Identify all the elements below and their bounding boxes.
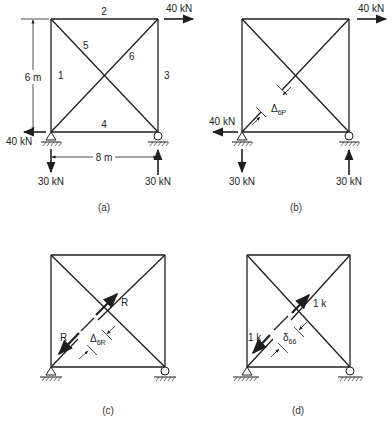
member-label-1: 1 bbox=[58, 70, 64, 81]
member-label-3: 3 bbox=[164, 70, 170, 81]
pin-support bbox=[40, 367, 62, 381]
svg-text:R: R bbox=[60, 332, 67, 343]
member-6-upper-segment bbox=[291, 255, 350, 320]
svg-text:30 kN: 30 kN bbox=[336, 176, 362, 187]
member-label-6: 6 bbox=[129, 51, 135, 62]
svg-text:Δ6R: Δ6R bbox=[90, 333, 106, 346]
member-6-upper-segment bbox=[98, 255, 165, 320]
load-arrow-top-right: 40 kN bbox=[164, 3, 193, 19]
force-arrow-lower-R: R bbox=[59, 332, 79, 354]
pin-support bbox=[232, 132, 253, 146]
separation-line bbox=[274, 316, 288, 330]
member-label-2: 2 bbox=[101, 6, 107, 17]
svg-text:30 kN: 30 kN bbox=[145, 176, 171, 187]
roller-support bbox=[339, 132, 360, 146]
reaction-arrow-left-vertical: 30 kN bbox=[229, 149, 255, 187]
svg-text:40 kN: 40 kN bbox=[209, 116, 235, 127]
width-dimension: 8 m bbox=[52, 152, 157, 163]
svg-text:δ66: δ66 bbox=[283, 332, 296, 345]
member-6-lower-segment bbox=[247, 339, 273, 367]
caption-d: (d) bbox=[292, 405, 304, 416]
caption-c: (c) bbox=[102, 405, 114, 416]
panel-b: Δ6P 40 kN 40 kN 30 kN 30 kN bbox=[209, 3, 386, 213]
height-dimension: 6 m bbox=[21, 19, 49, 131]
pin-support bbox=[233, 367, 259, 381]
svg-text:30 kN: 30 kN bbox=[38, 176, 64, 187]
svg-text:R: R bbox=[121, 297, 128, 308]
roller-support bbox=[154, 367, 176, 381]
truss-frame bbox=[51, 19, 158, 132]
truss-figure: 2 1 3 4 5 6 6 m 8 m bbox=[0, 0, 392, 424]
roller-support bbox=[148, 132, 169, 146]
reaction-arrow-left-vertical: 30 kN bbox=[38, 149, 64, 187]
reaction-arrow-right-vertical: 30 kN bbox=[145, 150, 171, 187]
member-6-lower-segment bbox=[242, 112, 261, 132]
caption-a: (a) bbox=[98, 202, 110, 213]
reaction-arrow-right-vertical: 30 kN bbox=[336, 150, 362, 187]
member-label-4: 4 bbox=[101, 119, 107, 130]
svg-text:30 kN: 30 kN bbox=[229, 176, 255, 187]
svg-text:40 kN: 40 kN bbox=[358, 3, 384, 14]
member-6-lower-segment bbox=[51, 339, 78, 367]
caption-b: (b) bbox=[290, 202, 302, 213]
truss-frame bbox=[242, 19, 349, 132]
gap-indicator-6p: Δ6P bbox=[252, 85, 291, 125]
truss-frame bbox=[247, 255, 350, 367]
pin-support bbox=[41, 132, 62, 146]
panel-d: 1 k 1 k δ66 (d) bbox=[233, 255, 363, 416]
force-arrow-lower-1k: 1 k bbox=[248, 332, 270, 353]
reaction-arrow-left-horizontal: 40 kN bbox=[6, 132, 46, 147]
reaction-arrow-left-horizontal: 40 kN bbox=[209, 116, 238, 132]
panel-a: 2 1 3 4 5 6 6 m 8 m bbox=[6, 3, 193, 213]
roller-support bbox=[338, 367, 363, 381]
svg-text:40 kN: 40 kN bbox=[166, 3, 192, 14]
panel-c: R R Δ6R (c) bbox=[40, 255, 176, 416]
svg-text:1 k: 1 k bbox=[313, 298, 327, 309]
member-label-5: 5 bbox=[83, 40, 89, 51]
member-6-upper-segment bbox=[282, 19, 349, 90]
truss-frame bbox=[51, 255, 165, 367]
height-label: 6 m bbox=[25, 72, 42, 83]
svg-text:1 k: 1 k bbox=[248, 332, 262, 343]
load-arrow-top-right: 40 kN bbox=[357, 3, 386, 19]
separation-line bbox=[81, 318, 94, 331]
width-label: 8 m bbox=[96, 152, 113, 163]
svg-text:Δ6P: Δ6P bbox=[271, 103, 287, 116]
gap-indicator-6r: Δ6R bbox=[79, 326, 115, 359]
svg-text:40 kN: 40 kN bbox=[6, 136, 32, 147]
